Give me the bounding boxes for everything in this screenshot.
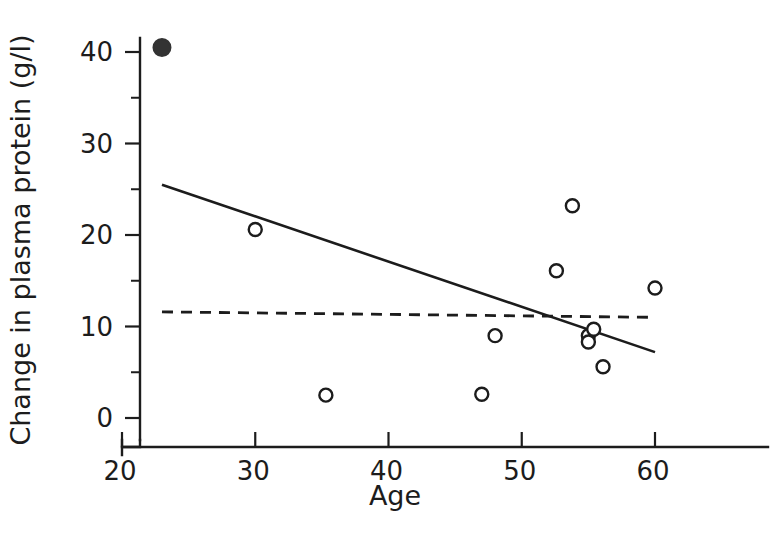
axis-corner: [122, 440, 140, 447]
regression-all-data: [162, 185, 655, 352]
data-point-open: [582, 336, 595, 349]
data-point-markers: [153, 39, 661, 402]
x-axis-title: Age: [369, 480, 421, 511]
data-point-open: [566, 199, 579, 212]
y-tick-label-10: 10: [80, 312, 113, 342]
data-point-filled: [153, 39, 170, 56]
regression-lines: [162, 185, 655, 352]
y-axis-title: Change in plasma protein (g/l): [5, 34, 36, 445]
scatter-plot-figure: 010203040 2030405060 Age Change in plasm…: [0, 0, 783, 533]
data-point-open: [597, 360, 610, 373]
data-point-open: [587, 323, 600, 336]
data-point-open: [489, 329, 502, 342]
plot-canvas: 010203040 2030405060 Age Change in plasm…: [0, 0, 783, 533]
data-point-open: [475, 388, 488, 401]
x-tick-label-30: 30: [237, 456, 270, 486]
y-axis-major-ticks: [125, 52, 140, 418]
data-point-open: [649, 282, 662, 295]
data-point-open: [550, 264, 563, 277]
y-tick-label-0: 0: [96, 403, 113, 433]
data-point-open: [319, 389, 332, 402]
y-tick-label-30: 30: [80, 129, 113, 159]
y-tick-label-40: 40: [80, 37, 113, 67]
x-tick-label-60: 60: [636, 456, 669, 486]
x-axis-major-ticks: [122, 432, 655, 447]
data-point-open: [249, 223, 262, 236]
regression-excluding-outlier: [162, 312, 655, 317]
x-tick-label-20: 20: [103, 456, 136, 486]
y-tick-label-20: 20: [80, 220, 113, 250]
y-axis-tick-labels: 010203040: [80, 37, 113, 433]
x-tick-label-50: 50: [503, 456, 536, 486]
x-axis-line: [122, 440, 768, 455]
